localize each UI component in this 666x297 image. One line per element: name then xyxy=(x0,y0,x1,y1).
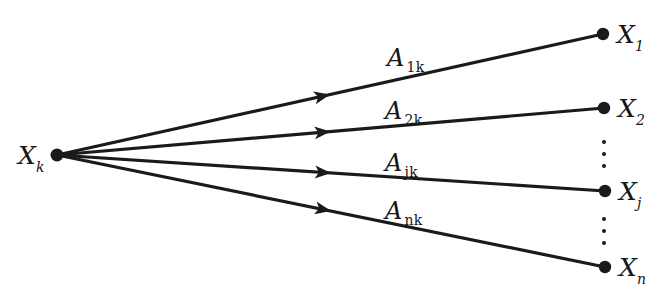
node-label-Xn: Xn xyxy=(619,255,646,280)
ellipsis-lower xyxy=(602,217,608,253)
node-label-Xj: Xj xyxy=(619,179,642,204)
edge-nk-label: Ank xyxy=(385,199,421,223)
label-variable: A xyxy=(387,44,405,72)
label-subscript: 2k xyxy=(405,112,423,128)
ellipsis-upper xyxy=(602,140,608,176)
label-variable: X xyxy=(617,20,635,49)
label-variable: X xyxy=(618,94,636,123)
node-dot-X2 xyxy=(598,102,610,114)
label-variable: A xyxy=(385,149,403,177)
node-dot-Xk xyxy=(51,149,64,162)
node-dot-Xj xyxy=(599,185,611,197)
ellipsis-dot xyxy=(602,241,606,245)
label-subscript: 1k xyxy=(407,59,425,75)
label-variable: X xyxy=(619,177,637,206)
label-variable: X xyxy=(18,141,36,170)
edge-layer xyxy=(57,34,605,267)
graph-canvas xyxy=(0,0,666,297)
label-subscript: 2 xyxy=(636,112,645,128)
ellipsis-dot xyxy=(602,164,606,168)
label-subscript: j xyxy=(637,195,642,211)
ellipsis-dot xyxy=(602,217,606,221)
label-subscript: n xyxy=(637,271,646,287)
label-variable: A xyxy=(385,97,403,125)
edge-1k-label: A1k xyxy=(387,46,423,70)
node-dot-X1 xyxy=(597,28,609,40)
label-subscript: 1 xyxy=(635,38,644,54)
edge-2k-label: A2k xyxy=(385,99,421,123)
signal-flow-figure: A1kA2kAjkAnkXkX1X2XjXn xyxy=(0,0,666,297)
label-subscript: jk xyxy=(405,164,418,180)
node-label-Xk: Xk xyxy=(18,143,45,168)
node-label-X1: X1 xyxy=(617,22,644,47)
label-subscript: nk xyxy=(405,212,423,228)
node-layer xyxy=(51,28,612,273)
edge-jk-label: Ajk xyxy=(385,151,416,175)
node-dot-Xn xyxy=(599,261,611,273)
label-variable: X xyxy=(619,253,637,282)
ellipsis-dot xyxy=(602,140,606,144)
node-label-X2: X2 xyxy=(618,96,645,121)
ellipsis-dot xyxy=(602,229,606,233)
label-variable: A xyxy=(385,197,403,225)
ellipsis-dot xyxy=(602,152,606,156)
label-subscript: k xyxy=(36,159,45,175)
